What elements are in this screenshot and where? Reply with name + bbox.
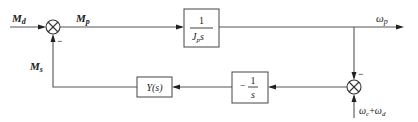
plant-numerator: 1	[199, 15, 204, 26]
label-mp: Mp	[75, 12, 90, 26]
mp-signal: Mp	[60, 12, 184, 30]
sum2-minus-sign: −	[358, 69, 363, 79]
plant-block: 1 Jps	[184, 9, 219, 47]
reference-input-signal: ωc+ωd	[352, 94, 386, 118]
label-omega-p: ωp	[376, 12, 388, 26]
controller-block: Y(s)	[137, 77, 172, 97]
integrator-sign: −	[240, 80, 246, 91]
block-diagram: Md − Mp 1 Jps ωp − ωc+	[0, 0, 418, 122]
label-omega-c-plus-omega-d: ωc+ωd	[359, 105, 386, 118]
summing-junction-2	[347, 80, 361, 94]
input-md-signal: Md	[10, 12, 46, 30]
error-signal	[268, 85, 347, 90]
output-omega-p-signal: ωp	[219, 12, 404, 30]
sum1-minus-sign: −	[57, 36, 62, 46]
label-md: Md	[11, 12, 27, 26]
feedback-ms-signal: Ms	[29, 34, 137, 87]
integrator-denominator: s	[251, 89, 255, 100]
integrator-block: − 1 s	[232, 72, 268, 103]
integrator-numerator: 1	[251, 75, 256, 86]
controller-label: Y(s)	[146, 82, 163, 94]
integrator-output-signal	[172, 85, 232, 90]
label-ms: Ms	[29, 60, 43, 74]
summing-junction-1: −	[46, 20, 62, 46]
feedback-branch: −	[352, 27, 364, 80]
